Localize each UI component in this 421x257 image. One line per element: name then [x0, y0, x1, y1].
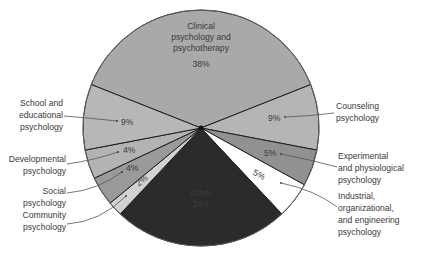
social-label-line-2: psychology — [23, 198, 67, 208]
school-leader-dot — [116, 120, 118, 122]
counseling-label-line-1: Counseling — [336, 101, 379, 111]
developmental-leader-dot — [117, 151, 119, 153]
clinical-label-line-1: Clinical — [187, 21, 215, 31]
industrial-label-line-2: organizational, — [338, 203, 394, 213]
industrial-label-line-3: and engineering — [338, 215, 400, 225]
community-leader-dot — [125, 195, 127, 197]
other-label: Other — [190, 188, 212, 198]
community-label-line-2: psychology — [23, 222, 67, 232]
counseling-pct: 9% — [268, 113, 281, 123]
community-label-line-1: Community — [23, 210, 67, 220]
school-label-line-1: School and — [20, 98, 63, 108]
clinical-label-line-3: psychotherapy — [173, 43, 230, 53]
school-label-line-3: psychology — [20, 122, 64, 132]
industrial-label-line-4: psychology — [338, 227, 382, 237]
developmental-label-line-2: psychology — [23, 166, 67, 176]
clinical-label-line-2: psychology and — [171, 32, 231, 42]
pie-chart: Clinical psychology and psychotherapy 38… — [0, 0, 421, 257]
experimental-label-line-3: psychology — [338, 175, 382, 185]
experimental-label-line-2: and physiological — [338, 163, 404, 173]
social-label-line-1: Social — [43, 186, 66, 196]
other-pct: 24% — [192, 199, 210, 209]
experimental-pct: 5% — [264, 148, 277, 158]
developmental-pct: 4% — [123, 145, 136, 155]
counseling-label-line-2: psychology — [336, 113, 380, 123]
pie-center-hub — [199, 126, 204, 131]
experimental-label-line-1: Experimental — [338, 151, 388, 161]
label-other: Other 24% — [190, 188, 212, 209]
school-label-line-2: educational — [19, 110, 63, 120]
clinical-pct: 38% — [192, 59, 210, 69]
developmental-label-line-1: Developmental — [9, 154, 66, 164]
school-pct: 9% — [121, 117, 134, 127]
industrial-label-line-1: Industrial, — [338, 191, 375, 201]
social-leader-dot — [121, 171, 123, 173]
social-pct: 4% — [126, 163, 139, 173]
